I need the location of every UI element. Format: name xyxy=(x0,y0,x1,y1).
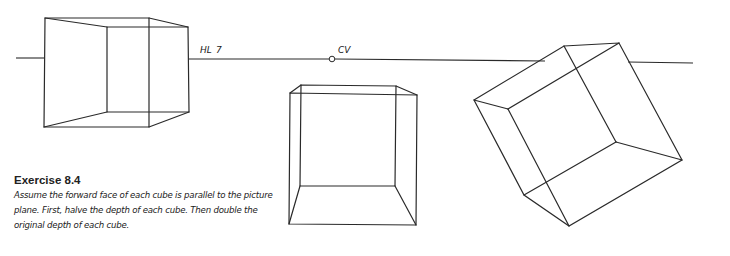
cube-left-edge xyxy=(45,18,107,27)
center-of-vision-label: CV xyxy=(338,45,351,55)
cube-left-edge xyxy=(149,112,189,127)
exercise-title: Exercise 8.4 xyxy=(14,174,274,186)
cube-right-edge xyxy=(524,142,616,195)
cube-center-edge xyxy=(290,85,301,93)
exercise-caption: Exercise 8.4 Assume the forward face of … xyxy=(14,174,274,233)
cube-left-back-face xyxy=(107,27,189,112)
horizon-line-right xyxy=(628,62,693,63)
horizon-line-center xyxy=(335,59,545,61)
cube-left xyxy=(44,18,189,127)
cube-left-edge xyxy=(44,112,107,127)
cube-center-edge xyxy=(289,186,300,224)
cube-center xyxy=(289,85,417,225)
cube-left-front-face xyxy=(44,18,149,127)
horizon-line-label: HL xyxy=(200,45,212,55)
cube-right-edge xyxy=(616,142,682,160)
cube-center-edge xyxy=(395,186,416,225)
cube-right-edge xyxy=(508,109,569,226)
center-of-vision-point xyxy=(329,56,335,62)
cube-left-edge xyxy=(149,18,188,27)
horizon-line-mark: 7 xyxy=(216,45,222,55)
exercise-instructions: Assume the forward face of each cube is … xyxy=(14,188,274,233)
cube-center-back-face xyxy=(300,85,396,186)
cube-center-edge xyxy=(396,86,417,95)
cube-center-front-face xyxy=(289,93,417,225)
cube-right-outline xyxy=(474,43,682,226)
cube-right-edge xyxy=(508,43,619,109)
cube-right xyxy=(474,43,682,226)
exercise-figure: HL 7 CV xyxy=(0,0,730,256)
cube-right-edge xyxy=(474,100,508,109)
